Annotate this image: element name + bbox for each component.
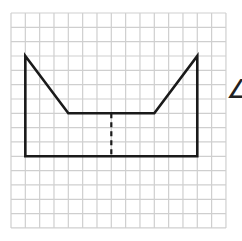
grid-diagram: [0, 0, 242, 241]
angle-symbol-icon: ∠: [226, 76, 242, 102]
grid-lines: [11, 13, 226, 228]
